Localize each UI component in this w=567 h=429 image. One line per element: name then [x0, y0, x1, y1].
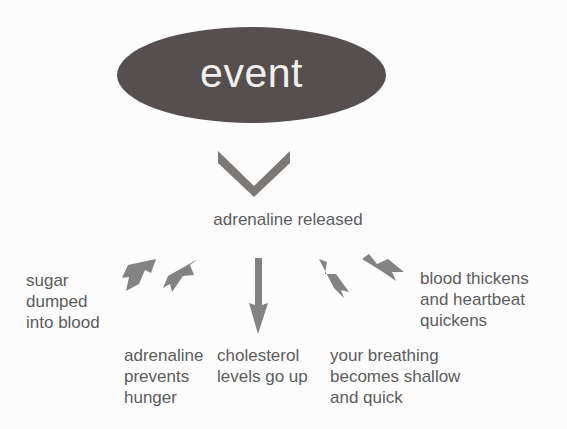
adrenaline-released-label: adrenaline released: [173, 209, 403, 230]
outcome-label-blood: blood thickens and heartbeat quickens: [420, 268, 567, 331]
event-node-label: event: [200, 53, 303, 97]
flow-diagram: event adrenaline released sugar dumped i…: [0, 0, 567, 429]
outcome-label-breathing: your breathing becomes shallow and quick: [330, 345, 470, 408]
outcome-label-sugar: sugar dumped into blood: [26, 270, 144, 333]
arrow-down-right-icon: [319, 259, 349, 298]
arrow-down-icon: [249, 258, 268, 334]
event-node: event: [117, 27, 386, 123]
arrow-down-left-icon: [163, 259, 198, 292]
chevron-down-icon: [218, 151, 290, 197]
outcome-label-cholesterol: cholesterol levels go up: [217, 345, 332, 387]
arrow-up-right-icon: [362, 254, 404, 281]
